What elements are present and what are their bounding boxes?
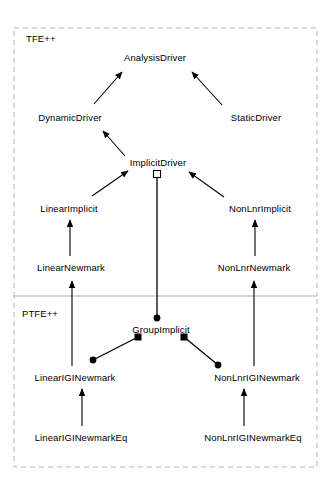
uml-class-diagram: TFE++ PTFE++ AnalysisDriver DynamicDrive… xyxy=(0,0,331,495)
class-linear-igi-newmark-eq[interactable]: LinearIGINewmarkEq xyxy=(35,432,128,443)
class-linear-newmark[interactable]: LinearNewmark xyxy=(37,262,105,273)
class-dynamic-driver[interactable]: DynamicDriver xyxy=(38,112,102,123)
filled-square-marker-groupimplicit-left xyxy=(135,334,142,341)
filled-square-marker-groupimplicit-right xyxy=(181,334,188,341)
package-label-tfe: TFE++ xyxy=(26,33,56,44)
hollow-square-marker-implicitdriver xyxy=(154,171,161,178)
class-implicit-driver[interactable]: ImplicitDriver xyxy=(130,157,186,168)
class-analysis-driver[interactable]: AnalysisDriver xyxy=(124,52,186,63)
edge-linearimplicit-implicitdriver xyxy=(92,171,128,196)
class-linear-igi-newmark[interactable]: LinearIGINewmark xyxy=(35,372,116,383)
edge-dynamicdriver-analysisdriver xyxy=(94,72,122,104)
edge-groupimplicit-lineariginewmark xyxy=(93,337,138,360)
package-label-ptfe: PTFE++ xyxy=(22,308,58,319)
class-non-lnr-newmark[interactable]: NonLnrNewmark xyxy=(218,262,291,273)
class-non-lnr-implicit[interactable]: NonLnrImplicit xyxy=(229,203,291,214)
filled-circle-marker-groupimplicit-top xyxy=(154,315,161,322)
edge-staticdriver-analysisdriver xyxy=(192,72,222,105)
filled-circle-marker-lineariginewmark xyxy=(90,357,97,364)
class-linear-implicit[interactable]: LinearImplicit xyxy=(40,203,97,214)
class-non-lnr-igi-newmark[interactable]: NonLnrIGINewmark xyxy=(214,372,300,383)
edge-implicitdriver-dynamicdriver xyxy=(103,131,125,156)
class-group-implicit[interactable]: GroupImplicit xyxy=(132,324,189,335)
edge-groupimplicit-nonlnriginewmark xyxy=(184,337,218,365)
filled-circle-marker-nonlnriginewmark xyxy=(215,362,222,369)
class-static-driver[interactable]: StaticDriver xyxy=(231,112,281,123)
edge-nonlnrimplicit-implicitdriver xyxy=(189,172,224,197)
class-non-lnr-igi-newmark-eq[interactable]: NonLnrIGINewmarkEq xyxy=(204,432,301,443)
diagram-canvas xyxy=(0,0,331,495)
